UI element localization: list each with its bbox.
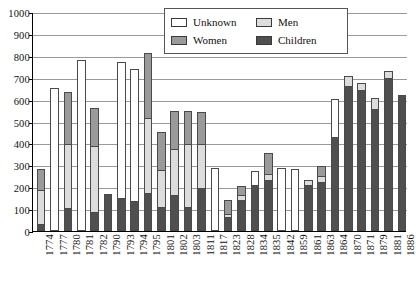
bar-1886[interactable] <box>398 95 407 231</box>
bar-1801[interactable] <box>157 132 166 231</box>
legend-swatch-children-icon <box>256 36 272 45</box>
x-tick-label: 1881 <box>392 234 403 256</box>
bar-1794[interactable] <box>130 69 139 231</box>
y-tick-label: 900 <box>0 29 30 40</box>
y-tick-label: 800 <box>0 51 30 62</box>
bar-segment-unknown <box>77 60 86 231</box>
y-tick-label: 300 <box>0 161 30 172</box>
bar-1774[interactable] <box>37 169 46 231</box>
x-tick-label: 1793 <box>125 234 136 256</box>
bar-1780[interactable] <box>64 92 73 231</box>
bar-segment-men <box>197 144 206 189</box>
bar-segment-children <box>331 137 340 231</box>
legend: Unknown Men Women Children <box>164 8 348 54</box>
y-tick-label: 500 <box>0 117 30 128</box>
bar-segment-unknown <box>251 171 260 186</box>
x-tick-label: 1777 <box>58 234 69 256</box>
bar-1802[interactable] <box>170 111 179 231</box>
x-tick-label: 1879 <box>378 234 389 256</box>
bar-1861[interactable] <box>304 180 313 231</box>
bar-segment-children <box>144 193 153 231</box>
bar-1803[interactable] <box>184 111 193 231</box>
bar-1864[interactable] <box>331 99 340 231</box>
x-tick-label: 1803 <box>191 234 202 256</box>
bar-segment-men <box>144 118 153 195</box>
legend-item-men[interactable]: Men <box>256 16 341 28</box>
x-tick-label: 1823 <box>231 234 242 256</box>
bar-segment-women <box>157 132 166 170</box>
bar-1811[interactable] <box>197 112 206 231</box>
bar-1859[interactable] <box>291 169 300 231</box>
bar-segment-children <box>398 95 407 231</box>
x-tick-label: 1834 <box>258 234 269 256</box>
y-tick-mark <box>29 232 33 233</box>
x-tick-label: 1790 <box>111 234 122 256</box>
bar-segment-men <box>184 144 193 208</box>
bar-1879[interactable] <box>371 98 380 231</box>
bar-1842[interactable] <box>277 168 286 232</box>
bar-segment-women <box>90 108 99 146</box>
x-tick-label: 1870 <box>352 234 363 256</box>
x-tick-label: 1780 <box>71 234 82 256</box>
legend-item-children[interactable]: Children <box>256 34 341 46</box>
x-tick-label: 1811 <box>205 234 216 255</box>
legend-item-unknown[interactable]: Unknown <box>171 16 256 28</box>
bar-1870[interactable] <box>344 76 353 231</box>
bar-segment-children <box>130 201 139 231</box>
y-tick-label: 200 <box>0 183 30 194</box>
bar-segment-men <box>157 170 166 208</box>
bar-1835[interactable] <box>264 153 273 231</box>
bar-1782[interactable] <box>90 108 99 231</box>
bar-segment-women <box>64 92 73 145</box>
x-tick-label: 1886 <box>405 234 416 256</box>
x-tick-label: 1802 <box>178 234 189 256</box>
bar-segment-children <box>371 109 380 231</box>
legend-swatch-women-icon <box>171 36 187 45</box>
bar-1777[interactable] <box>50 88 59 231</box>
legend-label-men: Men <box>278 16 298 28</box>
legend-item-women[interactable]: Women <box>171 34 256 46</box>
bar-1828[interactable] <box>237 186 246 231</box>
bar-1781[interactable] <box>77 60 86 231</box>
x-tick-label: 1864 <box>338 234 349 256</box>
y-tick-label: 600 <box>0 95 30 106</box>
bar-segment-women <box>264 153 273 175</box>
bar-segment-children <box>357 90 366 231</box>
bar-1881[interactable] <box>384 71 393 231</box>
bar-segment-children <box>197 188 206 231</box>
bar-1871[interactable] <box>357 83 366 231</box>
bar-1863[interactable] <box>317 166 326 231</box>
bar-segment-men <box>37 190 46 226</box>
bar-segment-children <box>104 194 113 231</box>
bar-segment-unknown <box>291 169 300 231</box>
bar-segment-children <box>64 208 73 231</box>
legend-swatch-unknown-icon <box>171 18 187 27</box>
x-tick-label: 1817 <box>218 234 229 256</box>
bar-segment-children <box>384 78 393 231</box>
bar-segment-unknown <box>211 168 220 232</box>
x-tick-label: 1861 <box>312 234 323 256</box>
bar-segment-children <box>117 198 126 231</box>
bar-1793[interactable] <box>117 62 126 231</box>
bar-1795[interactable] <box>144 53 153 231</box>
bar-segment-women <box>224 200 233 215</box>
legend-swatch-men-icon <box>256 18 272 27</box>
x-tick-label: 1794 <box>138 234 149 256</box>
bar-1834[interactable] <box>251 171 260 231</box>
bar-segment-children <box>344 86 353 231</box>
y-tick-label: 1000 <box>0 8 30 19</box>
bar-1790[interactable] <box>104 194 113 231</box>
bar-segment-children <box>224 217 233 231</box>
bar-segment-children <box>264 180 273 231</box>
bar-segment-women <box>197 112 206 145</box>
x-tick-label: 1774 <box>44 234 55 256</box>
y-tick-label: 0 <box>0 227 30 238</box>
bar-segment-men <box>170 149 179 196</box>
x-tick-label: 1828 <box>245 234 256 256</box>
bar-segment-children <box>157 207 166 231</box>
bar-1817[interactable] <box>211 168 220 232</box>
bar-segment-children <box>237 200 246 231</box>
x-axis-labels: 1774177717801781178217901793179417951801… <box>32 234 406 288</box>
x-tick-label: 1835 <box>271 234 282 256</box>
bar-1823[interactable] <box>224 200 233 231</box>
